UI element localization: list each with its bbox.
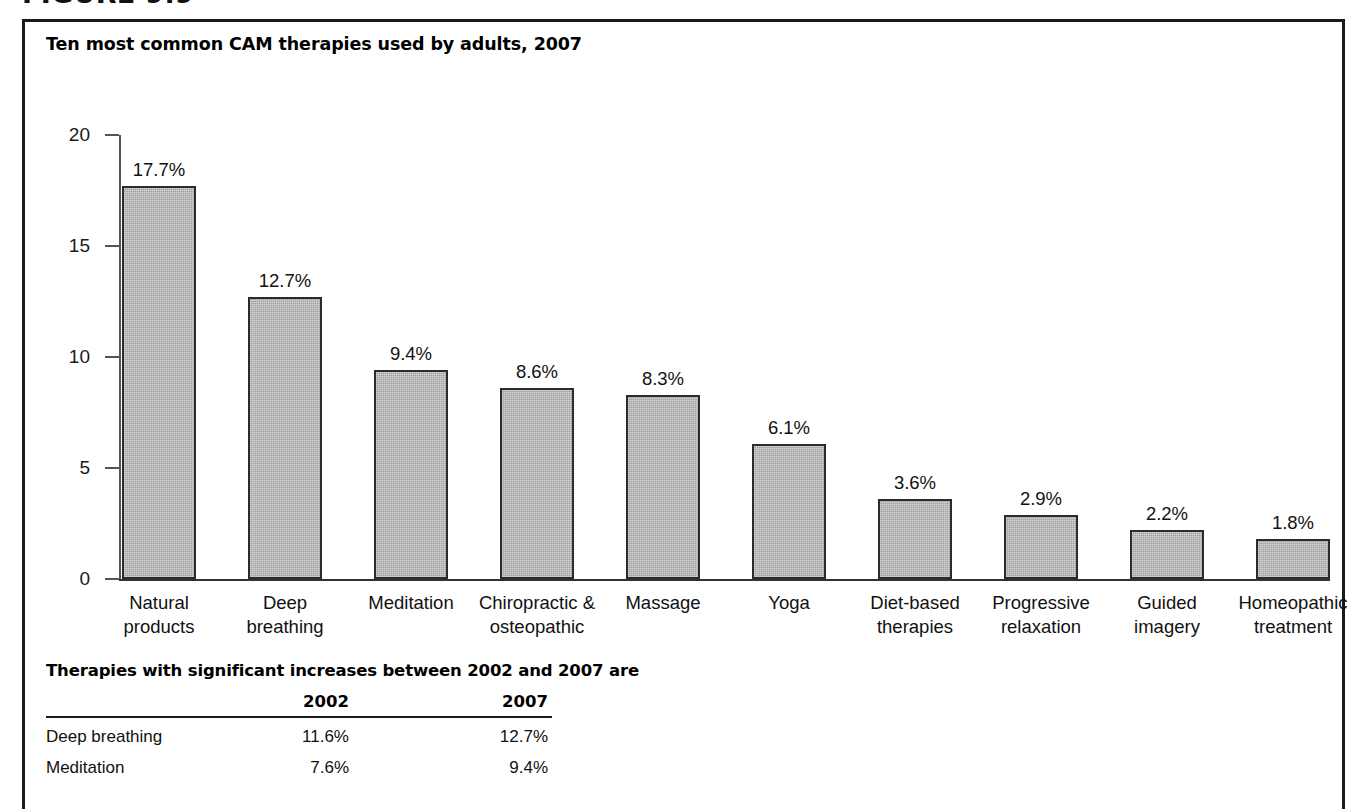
bar	[1130, 530, 1204, 579]
bar-value-label: 2.2%	[1112, 503, 1222, 525]
table-header-2007: 2007	[373, 690, 552, 717]
y-axis-tick	[105, 467, 119, 469]
table-row: Meditation7.6%9.4%	[46, 749, 552, 780]
bar-value-label: 8.6%	[482, 361, 592, 383]
table-header-therapy	[46, 690, 174, 717]
y-axis-tick	[105, 245, 119, 247]
y-axis-tick-label: 10	[30, 346, 90, 368]
table-cell-2007: 12.7%	[373, 717, 552, 749]
bar	[878, 499, 952, 579]
table-cell-2002: 7.6%	[174, 749, 373, 780]
table-header-row: 2002 2007	[46, 690, 552, 717]
bar-value-label: 8.3%	[608, 368, 718, 390]
bar-value-label: 12.7%	[230, 270, 340, 292]
table-cell-2007: 9.4%	[373, 749, 552, 780]
table-row: Deep breathing11.6%12.7%	[46, 717, 552, 749]
table-cell-2002: 11.6%	[174, 717, 373, 749]
category-label-line: treatment	[1214, 615, 1369, 639]
x-axis-line	[119, 579, 1330, 581]
bar	[626, 395, 700, 579]
y-axis-tick-label: 15	[30, 235, 90, 257]
footnote-table: 2002 2007 Deep breathing11.6%12.7%Medita…	[46, 690, 552, 780]
bar-value-label: 17.7%	[104, 159, 214, 181]
bar-value-label: 2.9%	[986, 488, 1096, 510]
category-label-line: breathing	[206, 615, 364, 639]
bar	[752, 444, 826, 579]
category-label: Homeopathictreatment	[1214, 591, 1369, 639]
category-label-line: Homeopathic	[1214, 591, 1369, 615]
table-cell-therapy: Deep breathing	[46, 717, 174, 749]
bar	[122, 186, 196, 579]
bar	[1004, 515, 1078, 579]
y-axis-tick-label: 0	[30, 568, 90, 590]
bar	[1256, 539, 1330, 579]
chart-title: Ten most common CAM therapies used by ad…	[46, 34, 582, 54]
table-header-2002: 2002	[174, 690, 373, 717]
bar	[374, 370, 448, 579]
bar-value-label: 9.4%	[356, 343, 466, 365]
bar-value-label: 1.8%	[1238, 512, 1348, 534]
y-axis-tick	[105, 134, 119, 136]
bar-value-label: 6.1%	[734, 417, 844, 439]
y-axis-tick	[105, 578, 119, 580]
plot-area: 17.7%12.7%9.4%8.6%8.3%6.1%3.6%2.9%2.2%1.…	[119, 135, 1330, 579]
bar-value-label: 3.6%	[860, 472, 970, 494]
bar	[248, 297, 322, 579]
y-axis-tick-label: 5	[30, 457, 90, 479]
footnote-table-heading: Therapies with significant increases bet…	[46, 661, 639, 680]
category-label-line: osteopathic	[458, 615, 616, 639]
table-cell-therapy: Meditation	[46, 749, 174, 780]
y-axis-tick	[105, 356, 119, 358]
y-axis-tick-label: 20	[30, 124, 90, 146]
bar	[500, 388, 574, 579]
figure-number: FIGURE 9.9	[22, 0, 194, 9]
